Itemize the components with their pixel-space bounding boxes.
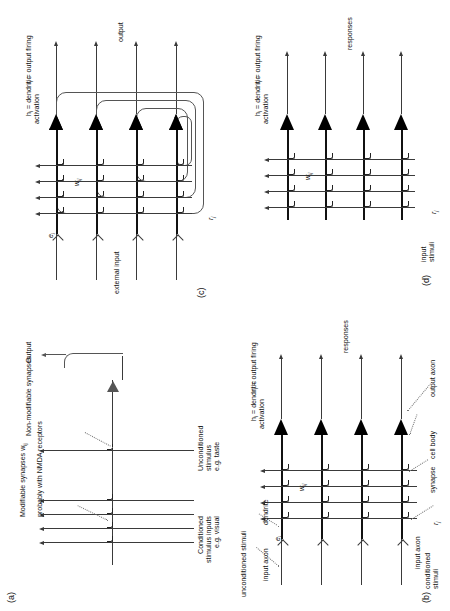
panel-b-output-arrow [279,354,283,359]
panel-b-cs-axon-1 [265,518,417,519]
panel-b-synapse-label: synapse [430,467,438,493]
panel-b-responses-label: responses [343,320,351,353]
panel-b: (b) [225,306,450,611]
panel-d-input-arrow-1 [264,207,269,211]
panel-c-ri-text: = output firing [25,35,33,80]
panel-a: (a) Conditioned stimulus inputs e.g. vis… [0,306,225,611]
panel-d-input-axon-1 [269,207,415,208]
panel-d-wij-sub: ij [307,173,313,175]
panel-c-e-symbol: e [47,234,55,238]
panel-b-input-arrow-3 [357,539,368,550]
panel-b-cell-body [314,419,328,435]
figure-canvas: (a) Conditioned stimulus inputs e.g. vis… [0,0,450,611]
panel-a-modifiable-label: Modifiable synapses wij probably with NM… [12,421,52,525]
panel-c-output-arrow [94,41,98,46]
panel-b-output-arrow [319,354,323,359]
panel-d-cell-body [394,114,408,130]
panel-c-external-arrow-2 [92,234,103,245]
panel-d-input-arrow-2 [264,191,269,195]
panel-a-modifiable-sub: ij [22,443,28,446]
panel-c-dendrite-2-top [96,130,98,234]
panel-b-hi-symbol: h [250,417,258,421]
panel-c-wij-sub: ij [76,179,82,181]
panel-b-dendrite-label: dendrite [263,499,271,525]
panel-d-output-arrow [361,51,365,56]
panel-a-key: (a) [6,592,16,603]
panel-b-wij-symbol: w [298,486,306,491]
panel-a-output-axon-curve [64,353,123,368]
panel-b-cs-arrow-3 [260,486,265,490]
panel-d-input-arrow-4 [264,159,269,163]
panel-c-output-arrow [54,41,58,46]
panel-b-conditioned-stimuli-label: conditioned stimuli [425,553,441,589]
panel-d-ri-symbol: r [254,82,262,84]
panel-d-hi-symbol: h [254,112,262,116]
panel-c-ri-label: ri = output firing [18,35,42,92]
panel-b-output-axon [281,357,282,419]
panel-b-input-axon-bottom-label: input axon [415,536,423,569]
panel-b-cs-arrow-4 [260,470,265,474]
panel-d-key: (d) [421,275,431,286]
panel-d-output-axon [325,54,326,114]
panel-b-ri-label: ri = output firing [243,342,267,399]
panel-d-output-arrow [285,51,289,56]
panel-c-recurrent-axon-1-top [40,213,192,214]
panel-b-wij-label: wij [291,484,315,499]
panel-d-rj-symbol: r [430,212,438,214]
panel-a-unconditioned-label: Unconditioned stimulus e.g. taste [198,426,222,471]
panel-c-e-label: ei [40,233,64,246]
panel-c-cell-body-top [49,114,63,130]
panel-d-cell-body [356,114,370,130]
panel-b-wij-sub: ij [301,484,307,486]
panel-c-external-arrow-4 [172,234,183,245]
panel-b-rj-label: rj [425,522,449,533]
panel-b-output-axon [361,357,362,419]
panel-d-output-arrow [399,51,403,56]
panel-a-cs-axon-2 [44,528,194,529]
panel-b-unconditioned-stimuli-label: unconditioned stimuli [241,531,249,597]
panel-b-cs-axon-2 [265,502,417,503]
panel-b-dendrite-1 [281,435,283,539]
panel-c-cell-body-top [89,114,103,130]
panel-c-rj-sub: j [210,217,216,218]
panel-d-wij-symbol: w [304,175,312,180]
panel-d-input-arrow-3 [264,175,269,179]
panel-c-cell-body-top [169,114,183,130]
panel-a-cell-body [107,381,119,392]
panel-d-input-axon-3 [269,175,415,176]
panel-c-recurrent-axon-2-top [40,197,192,198]
panel-c-cell-body-top [129,114,143,130]
panel-b-ri-text: = output firing [250,342,258,387]
panel-b-cell-body [274,419,288,435]
panel-b-e-symbol: e [274,537,282,541]
panel-c-rj-label: rj [200,217,224,228]
panel-c-external-arrow-3 [132,234,143,245]
panel-a-output-label: Output [26,342,34,363]
panel-d-ri-label: ri = output firing [247,35,271,92]
panel-d-ri-text: = output firing [254,35,262,80]
panel-b-cell-body-label: cell body [430,431,438,459]
panel-b-input-arrow-4 [397,539,408,550]
panel-a-modifiable-line2: probably with NMDA receptors [36,421,44,517]
panel-b-input-axon-leader-bottom [411,505,434,520]
panel-a-us-axon [44,450,194,451]
panel-c-recurrent-axon-3-top [40,181,192,182]
panel-c-recurrent-axon-4-top [40,165,192,166]
panel-a-cs-arrow-2 [39,528,44,532]
panel-c-output-arrow [174,41,178,46]
panel-b-ri-symbol: r [250,389,258,391]
panel-b-rj-sub: j [435,522,441,523]
panel-c-ri-symbol: r [25,82,33,84]
panel-b-e-label: ei [267,536,291,549]
panel-b-input-axon-top-label: input axon [263,548,271,581]
panel-b-dendrite-3 [361,435,363,539]
panel-d-output-axon [287,54,288,114]
panel-c: (c) [0,0,225,306]
panel-a-output-arrow [41,354,46,358]
panel-d-output-axon [363,54,364,114]
panel-a-nonmodifiable-leader [85,432,114,448]
panel-b-cs-axon-4 [265,470,417,471]
panel-b-cell-body [354,419,368,435]
panel-c-output-arrow [134,41,138,46]
panel-c-rj-symbol: r [207,218,215,220]
